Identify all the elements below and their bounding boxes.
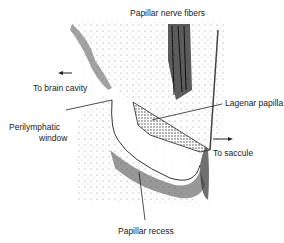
label-to-saccule: To saccule (213, 148, 253, 158)
label-window: window (39, 133, 67, 143)
label-to-brain-cavity: To brain cavity (33, 83, 87, 93)
anatomy-figure: Papillar nerve fibers To brain cavity La… (0, 0, 284, 243)
label-lagenar-papilla: Lagenar papilla (225, 98, 283, 108)
label-perilymphatic: Perilymphatic (9, 122, 60, 132)
label-papillar-recess: Papillar recess (118, 226, 174, 236)
label-papillar-nerve-fibers: Papillar nerve fibers (130, 8, 205, 18)
